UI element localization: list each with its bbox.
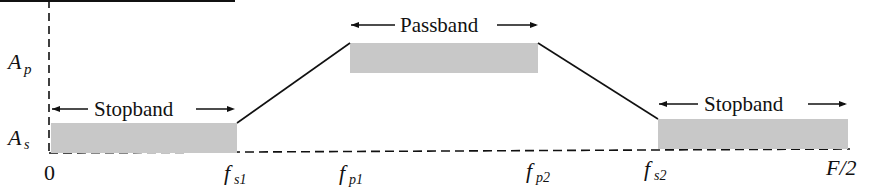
passband-label: Passband [351,13,538,37]
svg-text:f: f [224,160,233,185]
label-F-half: F/2 [825,155,857,180]
svg-text:s2: s2 [654,168,666,183]
stopband-right-label: Stopband [659,92,847,116]
label-As: A s [6,125,30,152]
svg-text:A: A [6,125,22,150]
stopband-left-label: Stopband [52,97,235,121]
arrow-right-icon [839,101,847,107]
label-fp1: f p1 [339,160,363,187]
svg-text:Stopband: Stopband [704,92,784,116]
transition-left [237,43,350,123]
label-fs1: f s1 [224,160,246,187]
transition-right [538,43,658,119]
svg-text:f: f [339,160,348,185]
label-fs2: f s2 [644,156,666,183]
svg-text:p2: p2 [535,170,550,185]
svg-text:Passband: Passband [400,13,479,37]
svg-text:s1: s1 [234,172,246,187]
passband-region [350,43,538,73]
svg-text:s: s [24,137,30,152]
label-origin: 0 [44,160,55,185]
arrow-left-icon [52,106,60,112]
arrow-right-icon [530,22,538,28]
bandpass-filter-diagram: Stopband Passband Stopband A p A s 0 f s… [0,0,869,190]
stopband-left-region [51,123,237,153]
label-Ap: A p [6,49,32,77]
arrow-left-icon [659,101,667,107]
arrow-left-icon [351,22,359,28]
stopband-right-region [658,119,848,149]
svg-text:p1: p1 [348,172,363,187]
label-fp2: f p2 [526,158,550,185]
svg-text:p: p [23,61,32,77]
svg-text:f: f [526,158,535,183]
svg-text:Stopband: Stopband [94,97,174,121]
svg-text:f: f [644,156,653,181]
arrow-right-icon [227,106,235,112]
svg-text:A: A [6,49,22,74]
